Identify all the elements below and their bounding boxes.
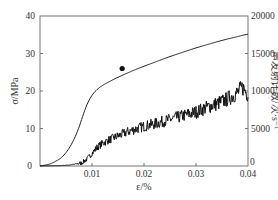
y2-tick-label: 20000 [251,11,275,21]
y2-tick-label: 5000 [251,124,270,134]
x-tick-label: 0.01 [84,169,101,179]
y2-axis-title: 声发射计数/次·s⁻¹ [270,51,278,129]
x-tick-label: 0.03 [188,169,205,179]
y-tick-label: 0 [27,161,32,171]
x-tick-label: 0.02 [136,169,153,179]
peak-marker [120,66,125,71]
x-tick-label: 0.04 [240,169,257,179]
y-tick-label: 10 [26,124,36,134]
x-axis: 0.01 0.02 0.03 0.04 ε/% [84,163,257,192]
right-y-axis: 0 5000 10000 15000 20000 声发射计数/次·s⁻¹ [245,11,278,167]
left-y-axis: 0 10 20 30 40 σ/MPa [9,11,43,171]
ae-count-series [40,81,248,166]
y-tick-label: 30 [26,49,36,59]
plot-frame [40,16,248,166]
x-axis-title: ε/% [136,181,151,192]
y-tick-label: 40 [26,11,36,21]
y-axis-title: σ/MPa [9,77,20,105]
y2-tick-label: 0 [250,157,255,167]
stress-ae-chart: 0 10 20 30 40 σ/MPa 0 5000 10000 15000 2… [0,0,278,200]
y-tick-label: 20 [26,86,36,96]
